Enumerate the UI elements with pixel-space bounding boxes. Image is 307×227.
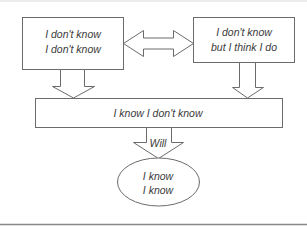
node-illusory-competence-line1: I don't know xyxy=(216,26,273,38)
will-arrow-label: Will xyxy=(150,137,167,149)
double-arrow-icon xyxy=(124,31,194,57)
node-conscious-competence-line1: I know xyxy=(143,170,175,182)
will-arrow: Will xyxy=(134,128,184,159)
node-illusory-competence-line2: but I think I do xyxy=(211,41,277,53)
node-unconscious-incompetence: I don't know I don't know xyxy=(23,18,124,70)
node-conscious-incompetence: I know I don't know xyxy=(36,99,283,128)
right-down-arrow-icon xyxy=(233,63,264,99)
node-conscious-incompetence-label: I know I don't know xyxy=(114,107,204,119)
node-conscious-competence: I know I know xyxy=(118,158,200,206)
node-conscious-competence-line2: I know xyxy=(143,184,175,196)
node-illusory-competence: I don't know but I think I do xyxy=(194,18,295,63)
node-unconscious-incompetence-line1: I don't know xyxy=(45,28,102,40)
knowledge-diagram: I don't know I don't know I don't know b… xyxy=(0,0,307,227)
node-unconscious-incompetence-line2: I don't know xyxy=(45,43,102,55)
left-down-arrow-icon xyxy=(53,70,95,99)
